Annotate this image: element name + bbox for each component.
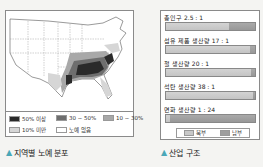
bar-segment-south <box>229 23 255 30</box>
bar-label-iron: 철 생산량 20 : 1 <box>164 59 209 68</box>
bar-label-population: 총인구 2.5 : 1 <box>164 13 203 22</box>
bar-coal <box>165 91 256 100</box>
legend-item-south: 남부 <box>220 129 242 137</box>
legend-label: 노예 없음 <box>69 126 91 134</box>
bar-label-cotton: 면화 생산량 1 : 24 <box>164 105 215 114</box>
legend-label: 남부 <box>232 129 242 137</box>
legend-item-none: 노예 없음 <box>56 126 91 134</box>
swatch <box>9 116 20 122</box>
bar-textile <box>165 45 256 54</box>
bar-segment-south <box>251 69 255 76</box>
slave-distribution-map-panel: 50% 이상 30 ~ 50% 10 ~ 30% 10% 미만 노예 없음 <box>5 10 134 137</box>
bar-segment-south <box>253 92 255 99</box>
bar-segment-north <box>166 69 251 76</box>
legend-item-30-50: 30 ~ 50% <box>56 115 96 121</box>
bar-segment-south <box>170 115 255 122</box>
map-legend: 50% 이상 30 ~ 50% 10 ~ 30% 10% 미만 노예 없음 <box>6 111 133 137</box>
bar-segment-north <box>166 92 253 99</box>
us-map <box>8 13 132 111</box>
legend-label: 50% 이상 <box>22 115 46 123</box>
swatch <box>56 115 67 121</box>
swatch <box>184 130 194 136</box>
legend-item-north: 북부 <box>184 129 206 137</box>
chart-caption: ▲ 산업 구조 <box>161 147 200 158</box>
bar-segment-south <box>250 46 255 53</box>
legend-item-50-plus: 50% 이상 <box>9 115 46 123</box>
swatch <box>103 115 114 121</box>
legend-label: 10 ~ 30% <box>116 115 143 121</box>
swatch <box>9 127 20 133</box>
swatch <box>56 127 67 133</box>
up-arrow-icon: ▲ <box>161 148 167 157</box>
up-arrow-icon: ▲ <box>6 148 12 157</box>
legend-item-under-10: 10% 미만 <box>9 126 46 134</box>
bar-segment-north <box>166 23 229 30</box>
legend-label: 10% 미만 <box>22 126 46 134</box>
bar-segment-north <box>166 46 250 53</box>
bar-iron <box>165 68 256 77</box>
swatch <box>220 130 230 136</box>
bar-label-coal: 석탄 생산량 38 : 1 <box>164 82 215 91</box>
industry-structure-chart-panel: 총인구 2.5 : 1 섬유 제품 생산량 17 : 1 철 생산량 20 : … <box>160 10 260 140</box>
bar-cotton <box>165 114 256 123</box>
bar-population <box>165 22 256 31</box>
legend-label: 북부 <box>196 129 206 137</box>
chart-legend: 북부 남부 <box>176 128 250 138</box>
map-caption: ▲ 지역별 노예 분포 <box>6 147 68 158</box>
bar-label-textile: 섬유 제품 생산량 17 : 1 <box>164 36 229 45</box>
legend-item-10-30: 10 ~ 30% <box>103 115 143 121</box>
map-caption-text: 지역별 노예 분포 <box>14 147 68 158</box>
legend-label: 30 ~ 50% <box>69 115 96 121</box>
chart-caption-text: 산업 구조 <box>169 147 200 158</box>
